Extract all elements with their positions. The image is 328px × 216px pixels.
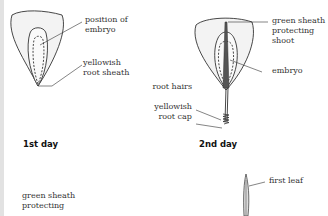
label-yellowish-root-sheath: yellowish root sheath <box>83 58 129 78</box>
label-position-of-embryo: position of embryo <box>85 15 128 35</box>
label-green-sheath-protecting-shoot: green sheath protecting shoot <box>272 16 325 46</box>
label-line: root sheath <box>83 68 129 78</box>
label-yellowish-root-cap: yellowish root cap <box>146 102 192 122</box>
label-line: embryo <box>85 25 128 35</box>
seed-day2 <box>195 18 268 128</box>
label-line: root cap <box>146 112 192 122</box>
seed-day1 <box>11 11 82 86</box>
label-line: position of <box>85 15 128 25</box>
seedling-first-leaf <box>244 174 265 216</box>
label-green-sheath-protecting: green sheath protecting <box>22 191 75 211</box>
label-root-hairs: root hairs <box>146 82 192 92</box>
label-line: protecting <box>22 201 75 211</box>
label-line: green sheath <box>22 191 75 201</box>
label-line: green sheath <box>272 16 325 26</box>
label-line: yellowish <box>83 58 129 68</box>
label-line: yellowish <box>146 102 192 112</box>
caption-2nd-day: 2nd day <box>199 139 237 149</box>
label-embryo: embryo <box>272 66 303 76</box>
label-first-leaf: first leaf <box>269 176 303 186</box>
label-line: protecting <box>272 26 325 36</box>
label-line: shoot <box>272 36 325 46</box>
caption-1st-day: 1st day <box>23 139 58 149</box>
